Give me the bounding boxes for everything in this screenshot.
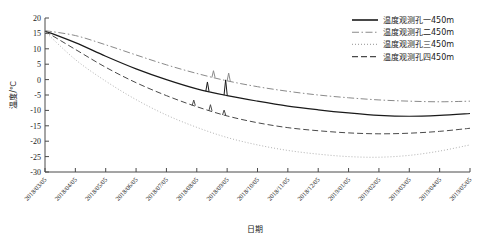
x-tick-label: 2019/04/05 — [417, 176, 442, 202]
y-axis-ticks: 20151050-5-10-15-20-25-30 — [30, 14, 49, 177]
legend-label-2: 温度观测孔二450m — [383, 27, 454, 37]
y-tick-label: -10 — [30, 106, 41, 115]
y-tick-label: -30 — [30, 168, 41, 177]
y-axis-label: 温度/℃ — [8, 81, 18, 109]
y-tick-label: -25 — [30, 153, 41, 162]
x-tick-label: 2019/03/05 — [387, 176, 412, 202]
y-tick-label: 0 — [37, 76, 41, 85]
x-tick-label: 2018/05/05 — [83, 176, 108, 202]
x-tick-label: 2018/11/05 — [266, 176, 291, 202]
x-tick-label: 2018/08/05 — [175, 176, 200, 202]
series-spike-6 — [209, 105, 212, 111]
x-axis-label: 日期 — [247, 225, 263, 234]
x-tick-label: 2018/03/05 — [23, 176, 48, 202]
series-spike-2 — [224, 80, 227, 95]
series-spike-4 — [227, 73, 230, 81]
y-tick-label: 15 — [33, 29, 41, 38]
y-tick-label: 10 — [33, 45, 41, 54]
x-tick-label: 2018/09/05 — [205, 176, 230, 202]
y-tick-label: -15 — [30, 122, 41, 131]
x-tick-label: 2018/04/05 — [53, 176, 78, 202]
x-tick-label: 2018/07/05 — [144, 176, 169, 202]
chart-series-group — [45, 31, 470, 158]
series-spike-7 — [223, 110, 226, 115]
chart-container: 20151050-5-10-15-20-25-30 2018/03/052018… — [0, 0, 489, 238]
series-spike-1 — [206, 82, 209, 91]
y-tick-label: -5 — [34, 91, 41, 100]
x-tick-label: 2018/10/05 — [235, 176, 260, 202]
temperature-line-chart: 20151050-5-10-15-20-25-30 2018/03/052018… — [0, 0, 489, 238]
x-tick-label: 2019/01/05 — [326, 176, 351, 202]
series-spike-3 — [212, 71, 215, 78]
series-spike-5 — [192, 100, 195, 106]
y-tick-label: 20 — [33, 14, 41, 23]
legend-label-4: 温度观测孔四450m — [383, 52, 454, 62]
x-tick-label: 2018/06/05 — [114, 176, 139, 202]
x-tick-label: 2019/05/05 — [448, 176, 473, 202]
series-line-3 — [45, 32, 470, 158]
x-tick-label: 2019/02/05 — [357, 176, 382, 202]
chart-legend: 温度观测孔一450m温度观测孔二450m温度观测孔三450m温度观测孔四450m — [352, 15, 454, 62]
x-axis-ticks: 2018/03/052018/04/052018/05/052018/06/05… — [23, 168, 473, 202]
legend-label-1: 温度观测孔一450m — [383, 15, 454, 25]
y-tick-label: -20 — [30, 137, 41, 146]
y-tick-label: 5 — [37, 60, 41, 69]
x-tick-label: 2018/12/05 — [296, 176, 321, 202]
legend-label-3: 温度观测孔三450m — [383, 39, 454, 49]
